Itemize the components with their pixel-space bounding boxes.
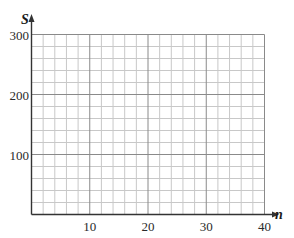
y-tick-label: 200: [10, 88, 30, 103]
y-tick-label: 300: [10, 28, 30, 43]
x-tick-label: 40: [258, 219, 271, 234]
x-tick-label: 20: [142, 219, 155, 234]
y-axis-arrow-icon: [29, 14, 35, 22]
x-tick-label: 10: [83, 219, 96, 234]
blank-grid-chart: 10203040100200300 S n: [0, 0, 294, 238]
y-tick-label: 100: [10, 148, 30, 163]
y-axis-label: S: [21, 12, 29, 27]
x-axis-label: n: [275, 207, 283, 222]
x-tick-label: 30: [200, 219, 213, 234]
